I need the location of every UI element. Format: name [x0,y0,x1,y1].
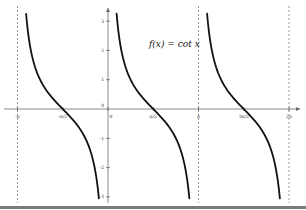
y-tick-label: 3 [101,19,104,24]
axes [4,8,300,203]
y-tick-label: 1 [101,77,104,82]
y-tick-label: 2 [101,48,104,53]
formula-label: f(x) = cot x [149,39,200,49]
x-axis-arrow-icon [296,107,300,111]
cot-curve-branch [26,14,99,199]
x-tick-label: π/2 [150,114,157,119]
x-tick-label: 0 [110,114,113,119]
origin-label: 0 [101,103,104,108]
x-tick-label: 3π/2 [239,114,249,119]
y-tick-label: -3 [100,194,105,199]
x-tick-label: π [197,114,200,119]
y-tick-label: -1 [100,136,105,141]
cot-chart: -π-π/20π/2π3π/22π321-1-2-30 [0,0,306,210]
x-tick-label: 2π [286,114,292,119]
bottom-divider [0,206,306,209]
y-axis-arrow-icon [106,8,110,12]
x-tick-label: -π/2 [58,114,67,119]
x-tick-label: -π [15,114,20,119]
y-tick-label: -2 [100,165,105,170]
cot-curve-branch [207,14,280,199]
